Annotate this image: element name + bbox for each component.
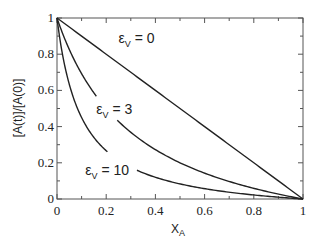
y-tick-labels: 00.20.40.60.81: [38, 10, 55, 206]
y-axis-title: [A(t)]/[A(0)]: [11, 79, 25, 138]
y-tick-label: 0.4: [38, 119, 55, 134]
curve-eps-3: [117, 120, 303, 199]
y-tick-label: 0: [48, 191, 55, 206]
chart: 00.20.40.60.81 00.20.40.60.81 εV = 0εV =…: [0, 0, 316, 243]
x-tick-label: 0.8: [246, 203, 262, 218]
x-tick-label: 0.6: [196, 203, 213, 218]
x-tick-label: 1: [300, 203, 307, 218]
x-tick-label: 0.2: [98, 203, 114, 218]
curve-labels: εV = 0εV = 3εV = 10: [85, 30, 154, 181]
x-tick-label: 0.4: [147, 203, 164, 218]
curve-label-eps-3: εV = 3: [96, 101, 132, 120]
x-tick-label: 0: [54, 203, 61, 218]
y-tick-label: 0.2: [38, 155, 54, 170]
curve-label-eps-0: εV = 0: [119, 30, 155, 49]
y-tick-label: 0.6: [38, 82, 55, 97]
y-tick-label: 0.8: [38, 46, 54, 61]
x-tick-labels: 00.20.40.60.81: [54, 203, 307, 218]
curve-label-eps-10: εV = 10: [85, 162, 129, 181]
x-axis-title: XA: [171, 222, 185, 238]
y-tick-label: 1: [48, 10, 55, 25]
